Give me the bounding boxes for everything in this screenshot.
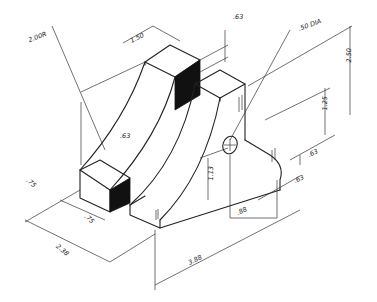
isometric-part-drawing xyxy=(0,0,377,302)
right-body xyxy=(130,70,281,228)
base-height-label: 1.13 xyxy=(208,166,215,180)
inner-step-label: .63 xyxy=(120,133,130,140)
technical-drawing: 2.00R 1.50 .63 .50 DIA 2.50 1.25 .63 .63… xyxy=(0,0,377,302)
top-depth-label: .63 xyxy=(233,14,243,21)
dimension-lines xyxy=(25,26,352,290)
hole-height-label: 1.25 xyxy=(322,96,329,110)
overall-height-label: 2.50 xyxy=(346,48,353,62)
